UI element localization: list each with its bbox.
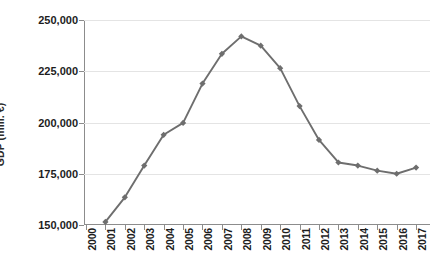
x-tick-label: 2006 [202,228,214,251]
x-tick-label: 2017 [416,228,428,251]
x-tick-label: 2011 [300,228,312,250]
y-tick-label: 225,000 [12,65,78,77]
y-axis-tick-labels: 150,000175,000200,000225,000250,000 [12,0,78,269]
plot-area [84,20,430,225]
y-tick-mark [79,225,84,226]
series-line [105,36,416,222]
x-tick-label: 2005 [183,228,195,251]
x-tick-label: 2010 [280,228,292,251]
y-tick-label: 200,000 [12,117,78,129]
data-point-marker [374,168,380,174]
x-tick-label: 2008 [241,228,253,251]
data-point-marker [394,171,400,177]
x-tick-label: 2016 [397,228,409,251]
x-tick-label: 2009 [261,228,273,251]
x-tick-label: 2000 [86,228,98,251]
data-point-marker [355,162,361,168]
x-tick-label: 2003 [144,228,156,251]
x-tick-label: 2015 [377,228,389,251]
x-tick-label: 2007 [222,228,234,251]
gdp-line-chart: GDP (mill. €) 150,000175,000200,000225,0… [0,0,446,269]
y-tick-label: 175,000 [12,168,78,180]
x-axis-tick-labels: 2000200120022003200420052006200720082009… [84,228,430,269]
x-tick-label: 2002 [125,228,137,251]
x-tick-label: 2014 [358,228,370,251]
x-tick-label: 2001 [105,228,117,251]
y-tick-label: 150,000 [12,219,78,231]
y-tick-label: 250,000 [12,14,78,26]
gdp-series [84,20,430,225]
x-tick-label: 2012 [319,228,331,251]
x-tick-label: 2013 [338,228,350,251]
x-tick-label: 2004 [164,228,176,251]
data-point-marker [413,165,419,171]
